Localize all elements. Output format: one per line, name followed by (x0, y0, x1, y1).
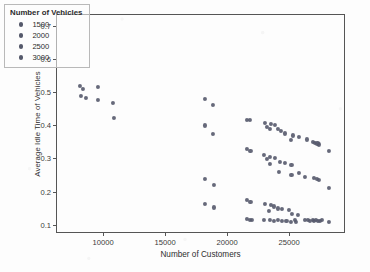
legend-marker-icon (19, 44, 23, 48)
x-tick-mark (103, 233, 104, 236)
x-tick-label: 10000 (93, 238, 114, 247)
data-point (267, 209, 271, 213)
data-point (294, 220, 298, 224)
legend-title: Number of Vehicles (10, 8, 82, 17)
legend-label: 2500 (32, 42, 49, 51)
data-point (203, 97, 207, 101)
data-point (279, 207, 283, 211)
data-point (327, 220, 331, 224)
data-point (320, 218, 324, 222)
plot-area (56, 14, 345, 233)
data-point (297, 171, 301, 175)
legend-entry-2000[interactable]: 2000 (10, 30, 82, 41)
data-point (83, 96, 87, 100)
legend-marker-icon (19, 55, 23, 59)
data-point (263, 202, 267, 206)
data-point (265, 157, 269, 161)
y-tick-label: 0.7 (24, 21, 51, 30)
data-point (289, 138, 293, 142)
legend-marker-icon (19, 33, 23, 37)
data-point (290, 212, 294, 216)
y-tick-mark (53, 59, 56, 60)
data-point (303, 175, 307, 179)
y-tick-mark (53, 225, 56, 226)
y-tick-mark (53, 125, 56, 126)
y-tick-label: 0.6 (24, 54, 51, 63)
x-tick-label: 15000 (155, 238, 176, 247)
data-point (248, 117, 252, 121)
data-point (111, 101, 115, 105)
y-tick-mark (53, 26, 56, 27)
y-tick-mark (53, 192, 56, 193)
data-point (277, 170, 281, 174)
x-tick-mark (165, 233, 166, 236)
scatter-plot-figure: Average Idle Time of Vehicles Number of … (0, 0, 370, 272)
data-point (268, 162, 272, 166)
x-tick-label: 20000 (217, 238, 238, 247)
data-point (278, 160, 282, 164)
data-point (283, 131, 287, 135)
data-point (211, 132, 215, 136)
legend-marker-icon (19, 22, 23, 26)
data-point (248, 200, 252, 204)
y-tick-label: 0.1 (24, 220, 51, 229)
data-point (250, 218, 254, 222)
data-point (203, 123, 207, 127)
data-point (268, 127, 272, 131)
y-tick-label: 0.4 (24, 121, 51, 130)
data-point (291, 133, 295, 137)
data-point (327, 149, 331, 153)
y-tick-label: 0.2 (24, 187, 51, 196)
data-point (296, 213, 300, 217)
data-point (289, 163, 293, 167)
data-point (203, 202, 207, 206)
y-tick-mark (53, 92, 56, 93)
data-point (81, 87, 85, 91)
x-tick-mark (289, 233, 290, 236)
data-point (212, 205, 216, 209)
x-tick-mark (227, 233, 228, 236)
data-point (96, 98, 100, 102)
data-point (273, 122, 277, 126)
y-tick-mark (53, 158, 56, 159)
data-point (112, 116, 116, 120)
data-point (327, 185, 331, 189)
data-point (262, 218, 266, 222)
legend-label: 2000 (32, 31, 49, 40)
x-axis-label: Number of Customers (56, 250, 345, 259)
legend-entry-2500[interactable]: 2500 (10, 41, 82, 52)
y-tick-label: 0.5 (24, 87, 51, 96)
data-point (273, 156, 277, 160)
data-point (305, 137, 309, 141)
data-point (317, 142, 321, 146)
data-point (283, 161, 287, 165)
x-tick-label: 25000 (279, 238, 300, 247)
data-point (203, 177, 207, 181)
y-tick-label: 0.3 (24, 154, 51, 163)
data-point (96, 85, 100, 89)
data-point (212, 183, 216, 187)
data-point (211, 103, 215, 107)
data-point (79, 94, 83, 98)
data-point (317, 178, 321, 182)
data-point (289, 173, 293, 177)
data-point (297, 135, 301, 139)
data-point (248, 149, 252, 153)
